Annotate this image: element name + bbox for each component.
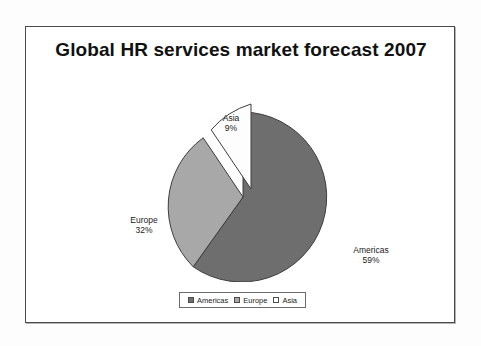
legend-item-asia[interactable]: Asia bbox=[273, 296, 297, 305]
legend-swatch-americas-icon bbox=[188, 297, 194, 303]
pie-label-europe: Europe 32% bbox=[104, 215, 184, 235]
legend-swatch-asia-icon bbox=[273, 297, 279, 303]
legend-label-americas: Americas bbox=[197, 296, 228, 305]
legend-label-asia: Asia bbox=[282, 296, 297, 305]
legend-item-europe[interactable]: Europe bbox=[234, 296, 267, 305]
pie-label-americas: Americas 59% bbox=[326, 245, 416, 265]
legend-swatch-europe-icon bbox=[234, 297, 240, 303]
pie-label-americas-name: Americas bbox=[326, 245, 416, 255]
legend-item-americas[interactable]: Americas bbox=[188, 296, 228, 305]
pie-label-europe-name: Europe bbox=[104, 215, 184, 225]
chart-title: Global HR services market forecast 2007 bbox=[26, 39, 456, 61]
pie-label-americas-percent: 59% bbox=[326, 255, 416, 265]
scanned-page-background: Global HR services market forecast 2007 … bbox=[0, 0, 481, 346]
chart-frame: Global HR services market forecast 2007 … bbox=[25, 26, 455, 323]
legend-label-europe: Europe bbox=[243, 296, 267, 305]
pie-label-asia: Asia 9% bbox=[186, 113, 276, 133]
pie-label-asia-name: Asia bbox=[186, 113, 276, 123]
chart-legend: Americas Europe Asia bbox=[179, 292, 306, 308]
pie-label-asia-percent: 9% bbox=[186, 123, 276, 133]
pie-label-europe-percent: 32% bbox=[104, 225, 184, 235]
pie-plot-area: Asia 9% Europe 32% Americas 59% bbox=[26, 67, 456, 282]
